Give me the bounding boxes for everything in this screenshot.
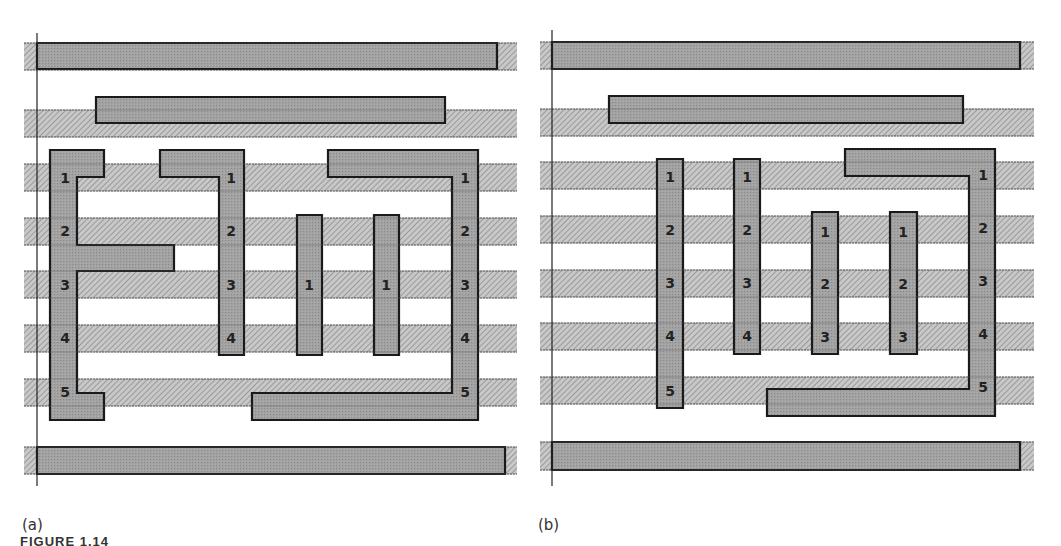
track-number-label: 1 (820, 224, 830, 240)
track-number-label: 2 (665, 222, 675, 238)
track-number-label: 4 (742, 328, 752, 344)
track-number-label: 4 (60, 330, 70, 346)
track-number-label: 1 (226, 170, 236, 186)
wire-bottom-rail (37, 447, 505, 474)
wire-top-rail (552, 42, 1020, 69)
track-number-label: 1 (978, 167, 988, 183)
track-number-label: 3 (820, 329, 830, 345)
diffusion-stripe (540, 216, 1034, 243)
track-number-label: 1 (60, 170, 70, 186)
track-number-label: 2 (60, 223, 70, 239)
track-number-label: 1 (898, 224, 908, 240)
track-number-label: 3 (60, 277, 70, 293)
track-number-label: 4 (665, 328, 675, 344)
wire-second-bar (609, 96, 963, 123)
track-number-label: 5 (460, 384, 470, 400)
panel-b: 12345123412312312345 (540, 30, 1034, 486)
track-number-label: 3 (665, 275, 675, 291)
wire-bottom-rail (552, 442, 1020, 470)
track-number-label: 1 (665, 169, 675, 185)
track-number-label: 3 (978, 273, 988, 289)
wire-top-rail (37, 43, 497, 69)
track-number-label: 2 (742, 222, 752, 238)
track-number-label: 1 (304, 277, 314, 293)
track-number-label: 2 (460, 223, 470, 239)
diffusion-stripe (24, 218, 517, 245)
track-number-label: 2 (820, 276, 830, 292)
track-number-label: 5 (978, 379, 988, 395)
diffusion-stripe (540, 323, 1034, 350)
layout-diagram: 1234512341112345 12345123412312312345 (0, 0, 1061, 546)
track-number-label: 2 (226, 223, 236, 239)
wire-pillar-2 (734, 159, 760, 354)
track-number-label: 1 (381, 277, 391, 293)
track-number-label: 3 (226, 277, 236, 293)
diffusion-stripe (24, 271, 517, 298)
track-number-label: 4 (460, 330, 470, 346)
track-number-label: 2 (898, 276, 908, 292)
track-number-label: 2 (978, 220, 988, 236)
track-number-label: 1 (742, 169, 752, 185)
track-number-label: 4 (226, 330, 236, 346)
diffusion-stripe (540, 270, 1034, 297)
track-number-label: 5 (60, 384, 70, 400)
panel-label-b: (b) (538, 516, 559, 534)
track-number-label: 4 (978, 326, 988, 342)
track-number-label: 3 (742, 275, 752, 291)
panel-label-a: (a) (22, 516, 43, 534)
track-number-label: 1 (460, 170, 470, 186)
track-number-label: 3 (898, 329, 908, 345)
diffusion-stripe (24, 325, 517, 352)
track-number-label: 3 (460, 277, 470, 293)
track-number-label: 5 (665, 383, 675, 399)
panel-a: 1234512341112345 (24, 33, 517, 486)
figure-caption: FIGURE 1.14 (20, 534, 109, 546)
